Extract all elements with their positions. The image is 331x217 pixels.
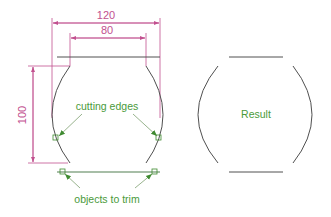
result-left-arc [198,66,218,163]
objects-to-trim-label: objects to trim [74,193,140,205]
right-arc-cutting-edge [146,66,163,163]
before-geometry [52,57,163,172]
annotation-leaders [59,114,157,188]
dimension-80-label: 80 [101,24,113,36]
trim-diagram: 120 80 100 cutting edges objects t [0,0,331,217]
dimension-80: 80 [70,24,146,66]
dimension-120-label: 120 [97,9,115,21]
result-right-arc [293,66,312,163]
result-label: Result [241,108,271,120]
dimension-100: 100 [16,66,70,163]
left-arc-cutting-edge [52,66,70,163]
dimension-100-label: 100 [16,106,28,124]
cutting-edges-label: cutting edges [76,100,138,112]
pick-boxes [53,135,161,174]
